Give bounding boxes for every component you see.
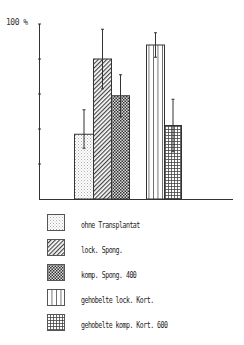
bar-vertical-lines: [147, 45, 165, 199]
legend-label: lock. Spong.: [81, 246, 122, 255]
legend-label: ohne Transplantat: [81, 221, 140, 230]
legend-label: gehobelte komp. Kort. 600: [81, 321, 167, 330]
legend-label: gehobelte lock. Kort.: [81, 296, 154, 305]
bars: [75, 45, 182, 199]
y-axis: [38, 24, 41, 199]
legend-swatch-diagonal: [47, 239, 65, 256]
legend-swatch-grid: [47, 314, 65, 331]
legend-item: ohne Transplantat: [47, 214, 237, 232]
legend-swatch-crosshatch: [47, 264, 65, 281]
legend-item: gehobelte lock. Kort.: [47, 289, 237, 307]
legend-item: lock. Spong.: [47, 239, 237, 257]
legend-label: komp. Spong. 400: [81, 271, 136, 280]
legend-item: komp. Spong. 400: [47, 264, 237, 282]
y-axis-label: 100 %: [6, 18, 28, 27]
legend-swatch-vertical: [47, 289, 65, 306]
legend-swatch-dots: [47, 214, 65, 231]
legend-item: gehobelte komp. Kort. 600: [47, 314, 237, 332]
